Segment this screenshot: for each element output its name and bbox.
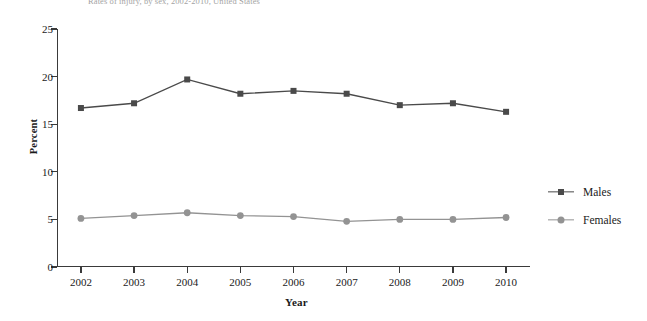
x-axis-tick bbox=[346, 267, 347, 273]
y-axis-tick-label: 25 bbox=[42, 24, 53, 35]
x-axis-tick bbox=[293, 267, 294, 273]
x-axis-tick-label: 2003 bbox=[123, 276, 145, 288]
data-point-females bbox=[503, 214, 510, 221]
data-point-males bbox=[184, 76, 190, 82]
x-axis-tick bbox=[133, 267, 134, 273]
legend-label: Females bbox=[583, 214, 621, 226]
data-point-males bbox=[131, 100, 137, 106]
chart-figure: Rates of injury, by sex, 2002-2010, Unit… bbox=[0, 0, 647, 321]
x-axis-tick-label: 2008 bbox=[389, 276, 411, 288]
data-point-males bbox=[503, 109, 509, 115]
data-point-males bbox=[397, 102, 403, 108]
x-axis-tick bbox=[505, 267, 506, 273]
chart-legend: MalesFemales bbox=[548, 178, 643, 234]
data-point-females bbox=[237, 212, 244, 219]
x-axis-title: Year bbox=[0, 296, 647, 308]
data-point-males bbox=[78, 105, 84, 111]
legend-label: Males bbox=[583, 186, 611, 198]
legend-item-males[interactable]: Males bbox=[548, 178, 643, 206]
data-point-females bbox=[78, 215, 85, 222]
x-axis-tick-label: 2006 bbox=[283, 276, 305, 288]
legend-item-females[interactable]: Females bbox=[548, 206, 643, 234]
data-point-males bbox=[237, 91, 243, 97]
data-point-males bbox=[291, 88, 297, 94]
y-axis-tick-label: 0 bbox=[48, 262, 54, 273]
legend-swatch-circle-icon bbox=[548, 214, 574, 226]
x-axis-tick bbox=[399, 267, 400, 273]
x-axis-title-text: Year bbox=[285, 296, 308, 308]
data-point-males bbox=[344, 91, 350, 97]
data-series-layer bbox=[57, 29, 530, 267]
y-axis-tick-label: 10 bbox=[42, 166, 53, 177]
x-axis-tick bbox=[80, 267, 81, 273]
y-axis-title: Percent bbox=[28, 119, 39, 155]
plot-area: 0510152025200220032004200520062007200820… bbox=[57, 29, 530, 267]
data-point-females bbox=[184, 209, 191, 216]
data-point-females bbox=[343, 218, 350, 225]
data-point-females bbox=[450, 216, 457, 223]
series-line-males bbox=[81, 79, 506, 111]
legend-swatch-square-icon bbox=[548, 186, 574, 198]
y-axis-tick-label: 20 bbox=[42, 71, 53, 82]
x-axis-tick bbox=[240, 267, 241, 273]
data-point-females bbox=[131, 212, 138, 219]
x-axis-tick-label: 2010 bbox=[495, 276, 517, 288]
x-axis-tick bbox=[452, 267, 453, 273]
x-axis-tick-label: 2007 bbox=[336, 276, 358, 288]
y-axis-tick-label: 5 bbox=[48, 214, 54, 225]
x-axis-tick-label: 2009 bbox=[442, 276, 464, 288]
x-axis-tick bbox=[187, 267, 188, 273]
y-axis-tick-label: 15 bbox=[42, 119, 53, 130]
x-axis-tick-label: 2005 bbox=[229, 276, 251, 288]
x-axis-tick-label: 2004 bbox=[176, 276, 198, 288]
data-point-females bbox=[290, 213, 297, 220]
data-point-females bbox=[396, 216, 403, 223]
data-point-males bbox=[450, 100, 456, 106]
x-axis-tick-label: 2002 bbox=[70, 276, 92, 288]
figure-title-clipped: Rates of injury, by sex, 2002-2010, Unit… bbox=[88, 0, 558, 6]
